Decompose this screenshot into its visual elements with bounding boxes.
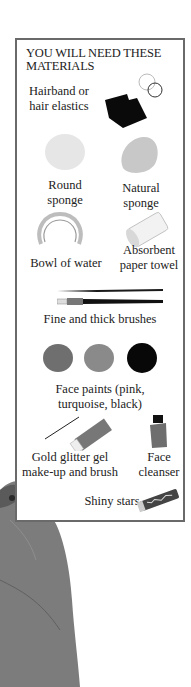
label-round-sponge: Round sponge [29, 178, 101, 208]
natural-sponge-icon [117, 134, 161, 174]
paint-pink [43, 344, 73, 372]
paint-turquoise [84, 344, 114, 372]
label-brushes: Fine and thick brushes [17, 312, 183, 327]
label-paper-towel: Absorbent paper towel [113, 243, 185, 273]
label-glitter-gel: Gold glitter gel make-up and brush [15, 450, 125, 480]
brushes-icon [57, 286, 167, 310]
label-natural-sponge: Natural sponge [105, 181, 177, 211]
label-bowl-of-water: Bowl of water [24, 256, 108, 271]
face-paints-icon [39, 341, 169, 375]
stars-tube-icon [135, 486, 183, 514]
paint-black [127, 343, 157, 373]
label-face-paints: Face paints (pink, turquoise, black) [17, 382, 183, 412]
label-face-cleanser: Face cleanser [127, 450, 191, 480]
hair-elastics-icon [101, 68, 181, 130]
cleanser-bottle-icon [147, 415, 171, 449]
round-sponge-icon [43, 132, 87, 172]
label-hairband: Hairband or hair elastics [23, 84, 95, 114]
glitter-tube-icon [41, 413, 121, 451]
materials-panel: YOU WILL NEED THESE MATERIALS Hairband o… [15, 38, 185, 522]
bowl-icon [35, 212, 85, 254]
